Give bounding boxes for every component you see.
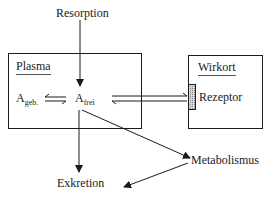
a-free-sub: frei [84, 98, 95, 107]
binding-equilibrium-arrows [45, 94, 66, 104]
metabolism-arrow [82, 110, 190, 158]
exkretion-label: Exkretion [57, 176, 104, 190]
a-bound-label: Ageb. [16, 91, 38, 110]
a-free-main: A [75, 91, 84, 105]
receptor-block [189, 85, 196, 110]
a-bound-sub: geb. [25, 98, 39, 107]
receptor-equilibrium-arrows [112, 93, 187, 104]
metabolism-to-excretion-arrow [124, 163, 188, 187]
wirkort-label: Wirkort [198, 60, 236, 76]
rezeptor-label: Rezeptor [199, 90, 242, 104]
a-free-label: Afrei [75, 91, 95, 110]
metabolismus-label: Metabolismus [191, 153, 259, 167]
resorption-label: Resorption [56, 6, 109, 20]
plasma-label: Plasma [16, 59, 51, 75]
a-bound-main: A [16, 91, 25, 105]
